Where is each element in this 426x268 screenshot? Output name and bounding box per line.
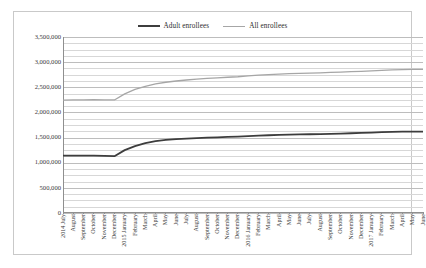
x-axis-tick-label: 2014 July	[59, 214, 68, 268]
x-axis-tick-label: April	[398, 214, 407, 268]
x-axis-tick: April	[275, 214, 284, 268]
x-axis-tick: November	[223, 214, 232, 268]
y-axis-labels: 0500,0001,000,0001,500,0002,000,0002,500…	[14, 12, 61, 268]
x-axis-tick-label: May	[408, 214, 417, 268]
x-axis-labels: 2014 JulyAugustSeptemberOctoberNovemberD…	[63, 214, 423, 268]
x-axis-tick: June	[419, 214, 426, 268]
x-axis-tick-label: July	[305, 214, 314, 268]
x-axis-tick: February	[377, 214, 386, 268]
x-axis-tick-label: November	[100, 214, 109, 268]
x-axis-tick: March	[388, 214, 397, 268]
x-axis-tick: May	[408, 214, 417, 268]
x-axis-tick-label: November	[223, 214, 232, 268]
x-axis-tick-label: February	[377, 214, 386, 268]
x-axis-tick: November	[347, 214, 356, 268]
legend-item-all-enrollees: All enrollees	[223, 22, 287, 30]
x-axis-tick-label: December	[357, 214, 366, 268]
x-axis-tick: June	[172, 214, 181, 268]
series-line	[63, 69, 423, 100]
x-axis-tick: May	[161, 214, 170, 268]
y-axis-tick-label: 500,000	[15, 185, 61, 192]
x-axis-tick: March	[141, 214, 150, 268]
chart-container: Adult enrollees All enrollees 0500,0001,…	[13, 11, 412, 255]
x-axis-tick-label: March	[388, 214, 397, 268]
x-axis-tick-label: April	[275, 214, 284, 268]
x-axis-tick: 2015 January	[120, 214, 129, 268]
chart-legend: Adult enrollees All enrollees	[14, 22, 411, 30]
legend-item-adult-enrollees: Adult enrollees	[138, 22, 210, 30]
x-axis-tick-label: October	[213, 214, 222, 268]
y-axis-tick-label: 2,500,000	[15, 84, 61, 91]
x-axis-tick: February	[131, 214, 140, 268]
x-axis-tick: March	[264, 214, 273, 268]
x-axis-tick: June	[295, 214, 304, 268]
x-axis-tick: 2016 January	[244, 214, 253, 268]
x-axis-tick-label: October	[89, 214, 98, 268]
series-line	[63, 132, 423, 157]
x-axis-tick: February	[254, 214, 263, 268]
y-axis-tick-label: 3,500,000	[15, 34, 61, 41]
x-axis-tick-label: December	[110, 214, 119, 268]
x-axis-tick-label: February	[254, 214, 263, 268]
x-axis-tick-label: April	[151, 214, 160, 268]
x-axis-tick-label: October	[336, 214, 345, 268]
x-axis-tick-label: August	[316, 214, 325, 268]
x-axis-tick-label: July	[182, 214, 191, 268]
x-axis-tick: October	[336, 214, 345, 268]
x-axis-tick: September	[203, 214, 212, 268]
x-axis-tick-label: May	[161, 214, 170, 268]
x-axis-tick-label: September	[203, 214, 212, 268]
legend-label-adult-enrollees: Adult enrollees	[164, 22, 210, 30]
x-axis-tick: July	[182, 214, 191, 268]
x-axis-tick: May	[285, 214, 294, 268]
x-axis-tick: April	[151, 214, 160, 268]
y-axis-tick-label: 3,000,000	[15, 59, 61, 66]
x-axis-tick: 2014 July	[59, 214, 68, 268]
x-axis-tick-label: February	[131, 214, 140, 268]
y-axis-tick-label: 1,000,000	[15, 159, 61, 166]
x-axis-tick: December	[233, 214, 242, 268]
x-axis-tick: October	[89, 214, 98, 268]
x-axis-tick: August	[192, 214, 201, 268]
y-axis-tick-label: 2,000,000	[15, 109, 61, 116]
x-axis-tick-label: 2016 January	[244, 214, 253, 268]
x-axis-tick: April	[398, 214, 407, 268]
x-axis-tick-label: March	[141, 214, 150, 268]
x-axis-tick-label: November	[347, 214, 356, 268]
x-axis-tick: October	[213, 214, 222, 268]
x-axis-tick-label: September	[79, 214, 88, 268]
x-axis-tick-label: August	[192, 214, 201, 268]
x-axis-tick: November	[100, 214, 109, 268]
x-axis-tick: 2017 January	[367, 214, 376, 268]
y-axis-tick-label: 0	[15, 210, 61, 217]
x-axis-tick: December	[110, 214, 119, 268]
x-axis-tick-label: June	[172, 214, 181, 268]
x-axis-tick: September	[326, 214, 335, 268]
x-axis-tick-label: May	[285, 214, 294, 268]
x-axis-tick-label: March	[264, 214, 273, 268]
x-axis-tick-label: December	[233, 214, 242, 268]
x-axis-tick-label: August	[69, 214, 78, 268]
x-axis-tick: August	[69, 214, 78, 268]
legend-swatch-all-enrollees	[223, 26, 245, 27]
x-axis-tick: September	[79, 214, 88, 268]
x-axis-tick: July	[305, 214, 314, 268]
legend-swatch-adult-enrollees	[138, 25, 160, 27]
x-axis-tick: August	[316, 214, 325, 268]
x-axis-tick: December	[357, 214, 366, 268]
legend-label-all-enrollees: All enrollees	[249, 22, 287, 30]
x-axis-tick-label: June	[419, 214, 426, 268]
x-axis-tick-label: September	[326, 214, 335, 268]
x-axis-tick-label: 2017 January	[367, 214, 376, 268]
x-axis-tick-label: 2015 January	[120, 214, 129, 268]
y-axis-tick-label: 1,500,000	[15, 134, 61, 141]
x-axis-tick-label: June	[295, 214, 304, 268]
series-lines	[63, 37, 425, 215]
